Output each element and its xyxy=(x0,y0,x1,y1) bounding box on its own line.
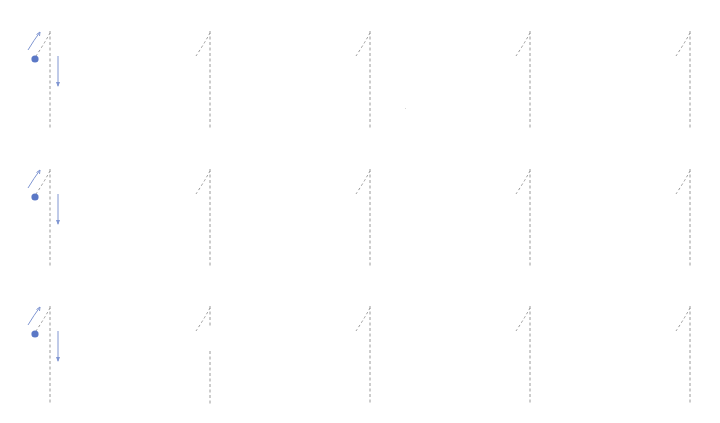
practice-row-1 xyxy=(0,30,720,140)
start-point-icon xyxy=(31,330,38,337)
handwriting-practice-sheet xyxy=(0,0,720,423)
dashed-flag-stroke xyxy=(516,33,530,56)
dashed-flag-stroke xyxy=(356,33,370,56)
trace-glyph[interactable] xyxy=(180,30,240,140)
trace-glyph[interactable] xyxy=(500,305,560,415)
dashed-flag-stroke xyxy=(36,308,50,331)
guided-trace-glyph[interactable] xyxy=(20,305,80,415)
dashed-flag-stroke xyxy=(676,308,690,331)
arrowhead-icon xyxy=(56,82,60,87)
practice-row-2 xyxy=(0,168,720,278)
dashed-flag-stroke xyxy=(676,33,690,56)
dashed-flag-stroke xyxy=(356,308,370,331)
dashed-flag-stroke xyxy=(516,308,530,331)
guided-trace-glyph[interactable] xyxy=(20,30,80,140)
dashed-flag-stroke xyxy=(676,171,690,194)
dashed-flag-stroke xyxy=(516,171,530,194)
trace-glyph[interactable] xyxy=(500,168,560,278)
trace-glyph[interactable] xyxy=(660,305,720,415)
trace-glyph[interactable] xyxy=(180,305,240,415)
trace-glyph[interactable] xyxy=(500,30,560,140)
dashed-flag-stroke xyxy=(196,308,210,331)
practice-row-3 xyxy=(0,305,720,415)
stroke-direction-arrow-icon xyxy=(28,170,40,188)
arrowhead-icon xyxy=(56,220,60,225)
trace-glyph[interactable] xyxy=(660,30,720,140)
trace-glyph[interactable] xyxy=(660,168,720,278)
trace-glyph[interactable] xyxy=(180,168,240,278)
trace-glyph[interactable] xyxy=(340,305,400,415)
dashed-flag-stroke xyxy=(196,171,210,194)
start-point-icon xyxy=(31,193,38,200)
start-point-icon xyxy=(31,55,38,62)
dashed-flag-stroke xyxy=(36,171,50,194)
trace-glyph[interactable] xyxy=(340,30,400,140)
arrowhead-icon xyxy=(56,357,60,362)
stroke-direction-arrow-icon xyxy=(28,307,40,325)
guided-trace-glyph[interactable] xyxy=(20,168,80,278)
dashed-flag-stroke xyxy=(196,33,210,56)
stray-mark xyxy=(405,108,406,109)
dashed-flag-stroke xyxy=(36,33,50,56)
stroke-direction-arrow-icon xyxy=(28,32,40,50)
dashed-flag-stroke xyxy=(356,171,370,194)
trace-glyph[interactable] xyxy=(340,168,400,278)
